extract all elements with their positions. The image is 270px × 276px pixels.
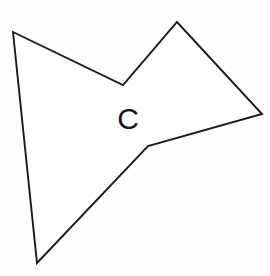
polygon-figure-svg: C xyxy=(0,0,270,276)
polygon-label-c: C xyxy=(117,102,139,135)
figure-canvas: C xyxy=(0,0,270,276)
